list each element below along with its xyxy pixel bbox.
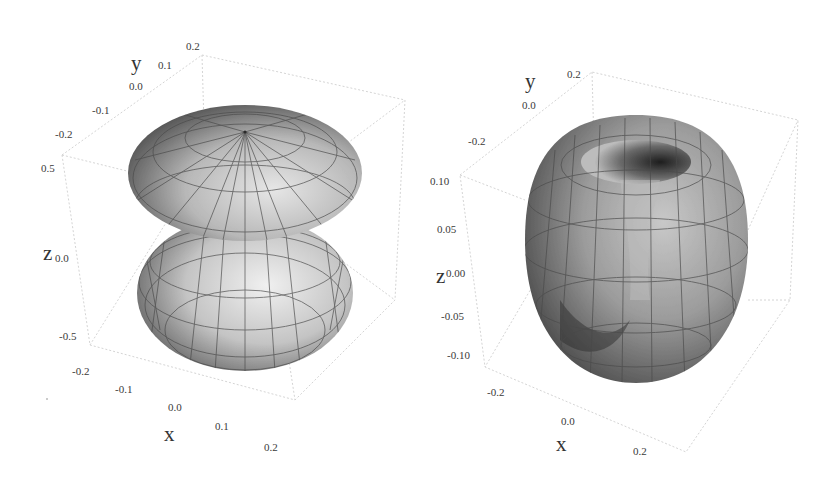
right-z-axis-label: z: [436, 264, 445, 288]
left-z-tick-0.0: 0.0: [55, 252, 69, 264]
right-y-tick-0.2: 0.2: [567, 68, 581, 80]
left-y-tick-0.0: 0.0: [129, 80, 143, 92]
stray-dot: [46, 398, 48, 400]
left-y-tick--0.2: -0.2: [55, 128, 72, 140]
left-plot: 0.2 0.1 0.0 -0.1 -0.2 y 0.5 0.0 -0.5 z -…: [41, 40, 405, 453]
right-z-tick-0.05: 0.05: [437, 223, 457, 235]
right-z-tick--0.05: -0.05: [441, 310, 464, 322]
left-x-tick-0.2: 0.2: [264, 441, 278, 453]
left-x-tick-0.1: 0.1: [215, 420, 229, 432]
left-x-tick-0.0: 0.0: [168, 401, 182, 413]
left-z-tick-0.5: 0.5: [41, 162, 55, 174]
right-y-axis-label: y: [525, 69, 536, 93]
right-y-tick--0.2: -0.2: [468, 135, 485, 147]
right-y-tick-0.0: 0.0: [522, 99, 536, 111]
left-z-tick--0.5: -0.5: [59, 330, 77, 342]
right-x-tick--0.2: -0.2: [487, 386, 504, 398]
toroid-body: [524, 115, 748, 383]
left-y-tick-0.2: 0.2: [186, 40, 200, 52]
right-z-tick-0.10: 0.10: [430, 175, 450, 187]
upper-lobe: [128, 105, 362, 245]
left-y-tick--0.1: -0.1: [92, 104, 109, 116]
left-x-tick--0.2: -0.2: [72, 365, 89, 377]
right-x-axis-label: x: [556, 432, 567, 456]
right-plot: 0.2 0.0 -0.2 y 0.10 0.05 0.00 -0.05 -0.1…: [430, 68, 798, 457]
left-z-axis-label: z: [43, 241, 52, 265]
right-z-tick--0.10: -0.10: [447, 349, 470, 361]
right-x-tick-0.2: 0.2: [633, 445, 647, 457]
left-y-tick-0.1: 0.1: [158, 59, 172, 71]
figure: 0.2 0.1 0.0 -0.1 -0.2 y 0.5 0.0 -0.5 z -…: [0, 0, 831, 484]
right-x-tick-0.0: 0.0: [561, 415, 575, 427]
right-z-tick-0.00: 0.00: [446, 267, 466, 279]
left-x-tick--0.1: -0.1: [115, 383, 132, 395]
left-y-axis-label: y: [131, 51, 142, 75]
left-x-axis-label: x: [164, 422, 175, 446]
